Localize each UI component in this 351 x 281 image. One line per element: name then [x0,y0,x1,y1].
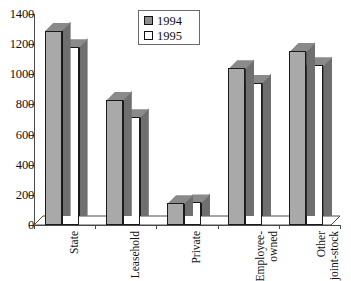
bar-group [167,14,201,225]
bar-1994-state [45,31,62,225]
x-axis-category-label: Leasehold [130,231,142,278]
legend-swatch-icon-1994 [144,16,153,25]
legend-swatch-icon-1995 [144,31,153,40]
x-axis-category-label-line: Other [315,231,328,280]
bar-side-face [123,91,132,216]
bar-front-face [228,68,245,225]
y-axis-tick-label-text: 1200 [6,38,34,51]
bar-group [106,14,140,225]
x-axis-category-label-line: owned [267,231,280,281]
y-axis-tick-label: 1200 [0,38,34,50]
y-axis-tick-label-text: 1000 [6,68,34,81]
bar-1994-leasehold [106,100,123,225]
bar-front-face [45,31,62,225]
bar-front-face [167,203,184,225]
plot-area [34,14,340,225]
x-axis-category-label: Private [191,231,203,264]
bar-1994-employee-owned [228,68,245,225]
y-axis-tick-label: 1400 [0,8,34,20]
bar-side-face [245,59,254,216]
x-axis-category-label-line: Employee- [254,231,267,281]
bar-front-face [289,51,306,225]
x-axis-tick-mark [34,225,35,229]
x-axis-tick-mark [279,225,280,229]
legend-label-1995: 1995 [157,29,182,43]
x-axis-category-label-line: joint-stock [328,231,341,280]
bar-group [289,14,323,225]
x-axis-category-label-line: Leasehold [130,231,142,278]
bar-side-face [323,56,332,216]
y-axis-tick-label-text: 600 [6,129,34,142]
bar-1994-other-joint-stock [289,51,306,225]
legend-label-1994: 1994 [157,14,182,28]
x-axis-tick-mark [156,225,157,229]
x-axis-tick-mark [218,225,219,229]
y-axis-tick-label-text: 400 [6,159,34,172]
y-axis-tick-label: 200 [0,189,34,201]
y-axis-tick-label: 0 [0,219,34,231]
x-axis-category-label: State [69,231,81,254]
x-axis-category-label-line: State [69,231,81,254]
y-axis-tick-label-text: 800 [6,98,34,111]
y-axis-tick-label: 800 [0,98,34,110]
y-axis-tick-label-text: 200 [6,189,34,202]
y-axis-tick-label-text: 1400 [6,8,34,21]
x-axis-category-label-line: Private [191,231,203,264]
x-axis-tick-mark [340,225,341,229]
bar-1994-private [167,203,184,225]
y-axis-tick-label-text: 0 [6,219,34,232]
bar-group [45,14,79,225]
x-axis-category-label: Otherjoint-stock [315,231,340,280]
y-axis-tick-label: 600 [0,129,34,141]
bar-side-face [306,42,315,216]
bar-front-face [106,100,123,225]
bar-side-face [62,22,71,216]
x-axis-tick-mark [95,225,96,229]
chart-legend: 1994 1995 [138,10,200,45]
y-axis-tick-label: 1000 [0,68,34,80]
bar-side-face [140,108,149,216]
bar-side-face [79,38,88,216]
bar-group [228,14,262,225]
bar-side-face [262,74,271,216]
x-axis-category-label: Employee-owned [254,231,279,281]
y-axis-tick-label: 400 [0,159,34,171]
